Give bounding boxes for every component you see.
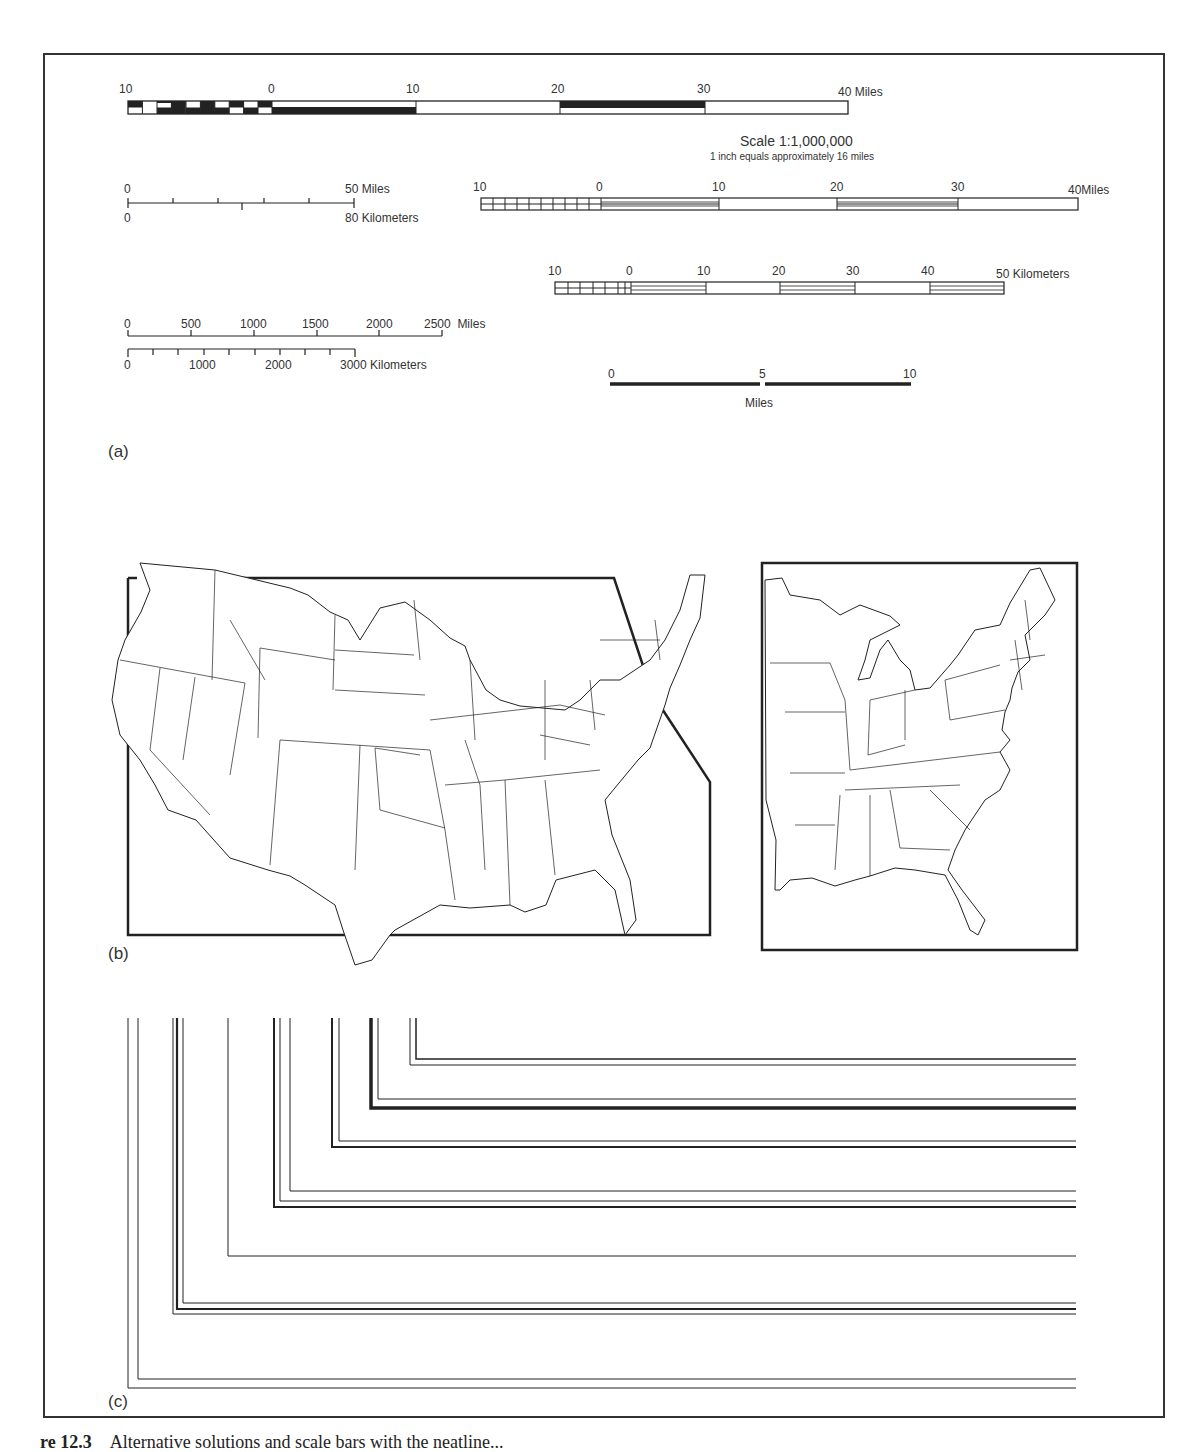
scale-bar-2-graphic (128, 198, 354, 210)
panel-b-label: (b) (108, 944, 129, 964)
scale-bar-5-graphic (128, 330, 442, 357)
eastern-us-map-outline (765, 568, 1055, 935)
caption-text: Alternative solutions and scale bars wit… (110, 1432, 504, 1452)
caption-number: re 12.3 (40, 1432, 92, 1452)
panel-c-label: (c) (108, 1392, 128, 1412)
scale-bar-3-graphic (481, 198, 1078, 210)
us-map-outline (112, 563, 705, 965)
figure-caption: re 12.3Alternative solutions and scale b… (40, 1432, 504, 1452)
neatline-samples (128, 1018, 1076, 1388)
scale-bar-4-graphic (555, 282, 1004, 294)
figure-graphics (0, 0, 1201, 1452)
scale-bar-1-graphic (128, 101, 848, 114)
